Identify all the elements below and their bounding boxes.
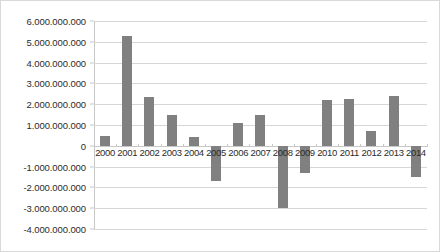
bar-slot xyxy=(405,21,427,229)
x-axis-tick-mark xyxy=(316,144,317,147)
x-axis-labels: 2000200120022003200420052006200720082009… xyxy=(94,147,427,161)
bar-slot xyxy=(249,21,271,229)
y-axis-tick-label: -3.000.000.000 xyxy=(23,203,86,214)
y-axis-tick-label: 4.000.000.000 xyxy=(27,57,86,68)
x-axis-tick-mark xyxy=(205,144,206,147)
bar[interactable] xyxy=(100,136,110,145)
x-axis-tick-mark xyxy=(183,144,184,147)
gridline xyxy=(94,229,427,230)
bar[interactable] xyxy=(344,99,354,146)
bar-slot xyxy=(294,21,316,229)
x-axis-tick-label: 2008 xyxy=(273,147,293,158)
y-axis-tick-label: -4.000.000.000 xyxy=(23,224,86,235)
x-axis-tick-mark xyxy=(383,144,384,147)
x-axis-tick-mark xyxy=(294,144,295,147)
bar-series xyxy=(94,21,427,229)
bar-slot xyxy=(94,21,116,229)
y-axis-tick-label: 1.000.000.000 xyxy=(27,120,86,131)
x-axis-tick-label: 2009 xyxy=(295,147,315,158)
bar[interactable] xyxy=(144,97,154,146)
y-axis-tick-label: 2.000.000.000 xyxy=(27,99,86,110)
y-axis-tick-label: 5.000.000.000 xyxy=(27,36,86,47)
bar-slot xyxy=(338,21,360,229)
x-axis-tick-label: 2002 xyxy=(140,147,160,158)
bar-slot xyxy=(205,21,227,229)
x-axis-tick-label: 2012 xyxy=(362,147,382,158)
bar[interactable] xyxy=(167,115,177,146)
bar-slot xyxy=(227,21,249,229)
y-axis-tick-label: 6.000.000.000 xyxy=(27,16,86,27)
y-axis-tick-label: -2.000.000.000 xyxy=(23,182,86,193)
bar[interactable] xyxy=(322,100,332,146)
x-axis-tick-mark xyxy=(249,144,250,147)
bar[interactable] xyxy=(122,36,132,146)
x-axis-tick-label: 2010 xyxy=(317,147,337,158)
x-axis-tick-label: 2014 xyxy=(406,147,426,158)
x-axis-tick-label: 2011 xyxy=(340,147,359,158)
x-axis-tick-label: 2004 xyxy=(184,147,204,158)
x-axis-tick-label: 2007 xyxy=(251,147,271,158)
y-axis-tick-label: 3.000.000.000 xyxy=(27,78,86,89)
bar[interactable] xyxy=(255,115,265,146)
x-axis-tick-label: 2013 xyxy=(384,147,404,158)
x-axis-tick-mark xyxy=(116,144,117,147)
x-axis-tick-mark xyxy=(161,144,162,147)
bar-chart: 6.000.000.0005.000.000.0004.000.000.0003… xyxy=(0,0,440,252)
bar-slot xyxy=(383,21,405,229)
x-axis-tick-mark xyxy=(227,144,228,147)
x-axis-tick-mark xyxy=(272,144,273,147)
x-axis-tick-mark xyxy=(405,144,406,147)
bar-slot xyxy=(161,21,183,229)
bar[interactable] xyxy=(233,123,243,146)
bar-slot xyxy=(183,21,205,229)
x-axis-tick-mark xyxy=(360,144,361,147)
plot-area xyxy=(94,21,427,229)
y-axis-tick-label: 0 xyxy=(81,140,86,151)
bar[interactable] xyxy=(366,131,376,146)
x-axis-tick-label: 2001 xyxy=(117,147,137,158)
bar-slot xyxy=(360,21,382,229)
x-axis-tick-mark xyxy=(338,144,339,147)
x-axis-tick-mark xyxy=(427,144,428,147)
y-axis-tick-label: -1.000.000.000 xyxy=(23,161,86,172)
bar-slot xyxy=(138,21,160,229)
y-axis-labels: 6.000.000.0005.000.000.0004.000.000.0003… xyxy=(1,1,91,252)
x-axis-tick-label: 2003 xyxy=(162,147,182,158)
bar-slot xyxy=(116,21,138,229)
bar[interactable] xyxy=(389,96,399,146)
x-axis-tick-mark xyxy=(138,144,139,147)
bar-slot xyxy=(272,21,294,229)
bar[interactable] xyxy=(189,137,199,145)
x-axis-tick-label: 2005 xyxy=(206,147,226,158)
bar-slot xyxy=(316,21,338,229)
x-axis-tick-mark xyxy=(94,144,95,147)
x-axis-tick-label: 2006 xyxy=(228,147,248,158)
x-axis-tick-label: 2000 xyxy=(95,147,115,158)
